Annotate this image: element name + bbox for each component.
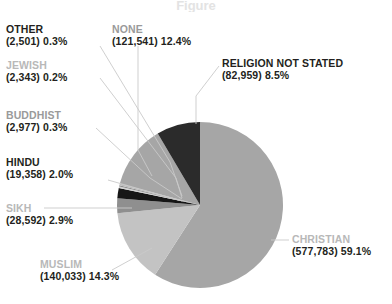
slice-label-sikh: SIKH (28,592) 2.9% — [6, 203, 73, 227]
slice-label-none-name: NONE — [112, 24, 191, 36]
slice-label-religion-not-stated-value: (82,959) 8.5% — [222, 70, 343, 82]
slice-label-buddhist-name: BUDDHIST — [6, 110, 67, 122]
slice-label-jewish-value: (2,343) 0.2% — [6, 72, 67, 84]
slice-label-none-value: (121,541) 12.4% — [112, 36, 191, 48]
slice-label-sikh-value: (28,592) 2.9% — [6, 215, 73, 227]
slice-label-religion-not-stated: RELIGION NOT STATED (82,959) 8.5% — [222, 58, 343, 82]
slice-label-jewish: JEWISH (2,343) 0.2% — [6, 60, 67, 84]
slice-label-christian-value: (577,783) 59.1% — [292, 246, 371, 258]
slice-label-sikh-name: SIKH — [6, 203, 73, 215]
pie-slices — [117, 122, 283, 288]
slice-label-religion-not-stated-name: RELIGION NOT STATED — [222, 58, 343, 70]
slice-label-other-value: (2,501) 0.3% — [6, 36, 67, 48]
slice-label-hindu-name: HINDU — [6, 157, 73, 169]
slice-label-jewish-name: JEWISH — [6, 60, 67, 72]
slice-label-other-name: OTHER — [6, 24, 67, 36]
slice-label-hindu: HINDU (19,358) 2.0% — [6, 157, 73, 181]
slice-label-other: OTHER (2,501) 0.3% — [6, 24, 67, 48]
slice-label-hindu-value: (19,358) 2.0% — [6, 169, 73, 181]
leader-line-religion-not-stated — [196, 66, 219, 124]
slice-label-buddhist: BUDDHIST (2,977) 0.3% — [6, 110, 67, 134]
slice-label-christian-name: CHRISTIAN — [292, 234, 371, 246]
slice-label-christian: CHRISTIAN (577,783) 59.1% — [292, 234, 371, 258]
slice-label-buddhist-value: (2,977) 0.3% — [6, 122, 67, 134]
slice-label-muslim: MUSLIM (140,033) 14.3% — [40, 259, 119, 283]
slice-label-muslim-value: (140,033) 14.3% — [40, 271, 119, 283]
slice-label-none: NONE (121,541) 12.4% — [112, 24, 191, 48]
chart-canvas: Figure OTHER (2,501) 0.3% JEW — [0, 0, 392, 304]
slice-label-muslim-name: MUSLIM — [40, 259, 119, 271]
